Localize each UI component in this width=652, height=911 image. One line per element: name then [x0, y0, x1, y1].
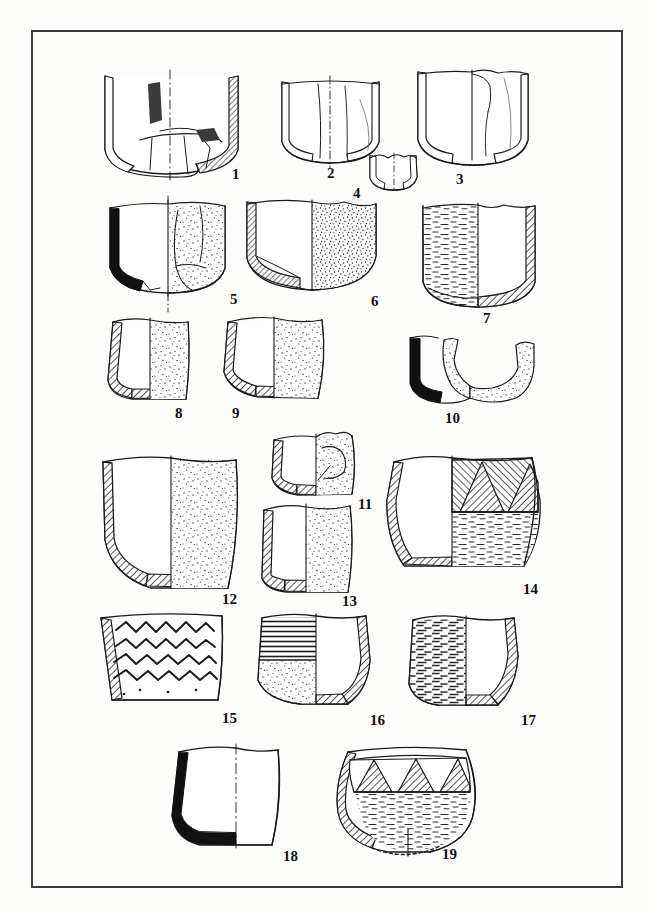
vessel-19 — [337, 747, 475, 856]
vessel-8 — [108, 318, 189, 399]
vessel-12 — [103, 456, 237, 588]
vessel-label-8: 8 — [175, 406, 183, 421]
vessel-label-18: 18 — [283, 849, 298, 864]
vessel-label-7: 7 — [483, 311, 491, 326]
vessel-label-17: 17 — [521, 713, 536, 728]
vessel-13 — [262, 504, 352, 592]
vessel-label-12: 12 — [222, 592, 237, 607]
vessel-3 — [418, 70, 528, 166]
vessel-label-10: 10 — [445, 411, 460, 426]
vessel-18 — [172, 744, 280, 848]
vessel-15 — [101, 614, 223, 700]
vessel-label-2: 2 — [327, 166, 335, 181]
vessel-label-9: 9 — [232, 406, 240, 421]
vessel-16 — [258, 614, 370, 704]
vessel-label-14: 14 — [523, 582, 538, 597]
vessel-label-19: 19 — [442, 847, 457, 862]
vessel-label-3: 3 — [456, 172, 464, 187]
vessel-17 — [409, 616, 518, 705]
vessel-label-13: 13 — [342, 594, 357, 609]
vessel-label-5: 5 — [230, 292, 238, 307]
vessel-4 — [370, 153, 417, 192]
vessel-9 — [224, 317, 324, 398]
vessel-label-6: 6 — [371, 294, 379, 309]
vessel-14 — [387, 456, 540, 566]
vessel-label-15: 15 — [222, 711, 237, 726]
vessel-label-11: 11 — [358, 497, 372, 512]
vessel-2 — [282, 76, 379, 168]
vessel-6 — [247, 200, 376, 290]
pottery-plate — [0, 0, 652, 911]
vessel-label-16: 16 — [370, 713, 385, 728]
vessel-7 — [423, 203, 535, 307]
vessel-label-1: 1 — [232, 167, 240, 182]
vessel-label-4: 4 — [353, 186, 361, 201]
vessel-11 — [272, 432, 355, 495]
vessel-1 — [105, 70, 238, 180]
